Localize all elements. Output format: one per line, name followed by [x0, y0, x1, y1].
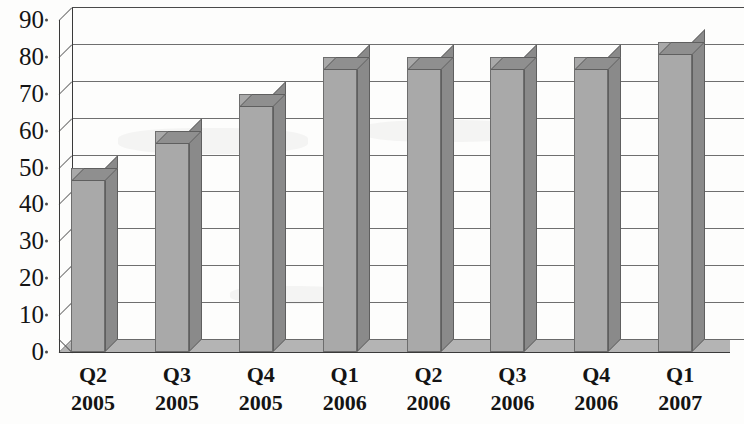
bar [155, 131, 189, 352]
y-tick-dot [45, 277, 48, 280]
x-tick-year: 2005 [132, 389, 222, 417]
bar [323, 57, 357, 352]
grid-connector [59, 44, 72, 57]
bar-side-face [608, 44, 621, 352]
x-tick-label: Q42006 [551, 361, 641, 416]
x-tick-quarter: Q1 [300, 361, 390, 389]
x-tick-year: 2006 [384, 389, 474, 417]
x-tick-year: 2006 [551, 389, 641, 417]
y-tick-dot [45, 55, 48, 58]
y-tick-dot [45, 92, 48, 95]
bar-front-face [155, 131, 189, 352]
bar-front-face [323, 57, 357, 352]
bar-side-face [105, 155, 118, 352]
bar-front-face [407, 57, 441, 352]
y-tick-label: 60 [0, 117, 44, 145]
bar [407, 57, 441, 352]
gridline [72, 44, 744, 45]
x-tick-quarter: Q3 [467, 361, 557, 389]
x-tick-quarter: Q2 [48, 361, 138, 389]
x-tick-year: 2006 [467, 389, 557, 417]
y-tick-label: 70 [0, 80, 44, 108]
x-tick-quarter: Q4 [551, 361, 641, 389]
y-axis-front [59, 20, 60, 353]
bar [490, 57, 524, 352]
x-tick-label: Q22005 [48, 361, 138, 416]
plot-area: 0102030405060708090 Q22005Q32005Q42005Q1… [0, 0, 744, 424]
grid-connector [59, 118, 72, 131]
grid-connector [59, 81, 72, 94]
bar-front-face [71, 168, 105, 352]
bar-front-face [574, 57, 608, 352]
x-tick-quarter: Q1 [635, 361, 725, 389]
bar [71, 168, 105, 352]
y-tick-dot [45, 166, 48, 169]
y-tick-label: 50 [0, 154, 44, 182]
bar-side-face [273, 81, 286, 352]
bar-side-face [357, 44, 370, 352]
x-tick-quarter: Q3 [132, 361, 222, 389]
x-tick-label: Q22006 [384, 361, 474, 416]
x-tick-year: 2006 [300, 389, 390, 417]
bar [658, 42, 692, 352]
x-tick-label: Q32005 [132, 361, 222, 416]
bar [574, 57, 608, 352]
x-tick-year: 2007 [635, 389, 725, 417]
x-tick-label: Q12006 [300, 361, 390, 416]
x-axis-labels: Q22005Q32005Q42005Q12006Q22006Q32006Q420… [0, 361, 744, 421]
bar-side-face [189, 118, 202, 352]
x-tick-label: Q42005 [216, 361, 306, 416]
baseline-front [59, 352, 730, 353]
x-tick-year: 2005 [216, 389, 306, 417]
y-tick-dot [45, 203, 48, 206]
y-tick-label: 10 [0, 301, 44, 329]
top-gridline [72, 7, 744, 8]
bar-side-face [692, 29, 705, 352]
y-tick-label: 20 [0, 264, 44, 292]
x-tick-quarter: Q2 [384, 361, 474, 389]
bar-front-face [490, 57, 524, 352]
y-tick-label: 30 [0, 227, 44, 255]
y-tick-dot [45, 314, 48, 317]
x-tick-year: 2005 [48, 389, 138, 417]
grid-connector [59, 7, 72, 20]
bar-chart: 0102030405060708090 Q22005Q32005Q42005Q1… [0, 0, 744, 424]
bar-front-face [658, 42, 692, 352]
y-tick-dot [45, 240, 48, 243]
y-tick-dot [45, 19, 48, 22]
y-tick-label: 40 [0, 190, 44, 218]
y-tick-dot [45, 351, 48, 354]
grid-connector [59, 155, 72, 168]
y-tick-label: 80 [0, 43, 44, 71]
bar-side-face [524, 44, 537, 352]
y-tick-dot [45, 129, 48, 132]
x-tick-label: Q12007 [635, 361, 725, 416]
bar-front-face [239, 94, 273, 352]
x-tick-quarter: Q4 [216, 361, 306, 389]
bar-side-face [441, 44, 454, 352]
y-tick-label: 90 [0, 6, 44, 34]
bar [239, 94, 273, 352]
x-tick-label: Q32006 [467, 361, 557, 416]
